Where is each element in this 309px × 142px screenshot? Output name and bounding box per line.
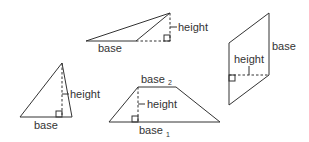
base1-label: base	[139, 124, 163, 136]
right-angle-marker	[164, 35, 170, 41]
acute-triangle-shape	[20, 63, 72, 117]
trapezoid: height base 2 base 1	[109, 73, 220, 138]
base1-subscript: 1	[166, 131, 170, 138]
obtuse-triangle-shape	[86, 13, 170, 41]
height-label: height	[178, 21, 208, 33]
height-label: height	[147, 98, 177, 110]
height-label: height	[234, 53, 264, 65]
parallelogram: height base	[229, 13, 296, 105]
geometry-figures-diagram: height base height base height base heig…	[0, 0, 309, 142]
base2-label: base	[141, 73, 165, 85]
right-angle-marker	[229, 75, 235, 81]
base-label: base	[98, 42, 122, 54]
height-label: height	[70, 88, 100, 100]
base2-subscript: 2	[168, 79, 172, 86]
right-angle-marker	[56, 111, 62, 117]
base-label: base	[272, 40, 296, 52]
obtuse-triangle: height base	[86, 13, 208, 54]
right-angle-marker	[132, 116, 138, 122]
base-label: base	[34, 119, 58, 131]
acute-triangle: height base	[20, 63, 100, 131]
